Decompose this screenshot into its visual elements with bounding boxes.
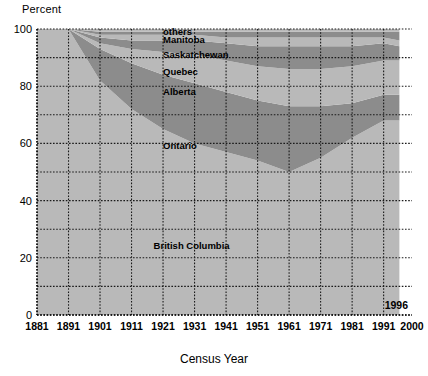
x-tick-label: 1961: [277, 320, 301, 332]
y-tick-label: 100: [14, 23, 32, 35]
x-tick-label: 1891: [57, 320, 81, 332]
series-label-alberta: Alberta: [163, 86, 196, 97]
y-tick-label: 60: [20, 137, 32, 149]
x-tick-label: 1901: [88, 320, 112, 332]
x-tick-label: 1911: [120, 320, 143, 332]
x-axis-title: Census Year: [0, 352, 428, 366]
chart-figure: Percent 02040608010018811891190119111921…: [0, 0, 428, 376]
end-year-annotation: 1996: [385, 299, 409, 311]
x-tick-label: 1981: [340, 320, 364, 332]
x-tick-labels: 1881189119011911192119311941195119611971…: [25, 320, 424, 332]
x-tick-label: 1991: [372, 320, 396, 332]
x-tick-label: 1921: [151, 320, 175, 332]
x-tick-label: 1881: [25, 320, 49, 332]
stacked-area-plot: 0204060801001881189119011911192119311941…: [0, 0, 428, 376]
series-label-manitoba: Manitoba: [163, 34, 205, 45]
y-tick-label: 20: [20, 252, 32, 264]
x-tick-label: 2000: [400, 320, 424, 332]
x-tick-label: 1971: [309, 320, 333, 332]
y-tick-label: 40: [20, 195, 32, 207]
y-tick-labels: 020406080100: [14, 23, 32, 321]
series-label-saskatchewan: Saskatchewan: [163, 49, 229, 60]
series-label-quebec: Quebec: [163, 66, 198, 77]
series-label-ontario: Ontario: [163, 140, 197, 151]
x-tick-label: 1951: [246, 320, 270, 332]
series-label-british-columbia: British Columbia: [154, 240, 231, 251]
y-tick-label: 80: [20, 80, 32, 92]
x-tick-label: 1941: [214, 320, 238, 332]
x-tick-label: 1931: [183, 320, 207, 332]
